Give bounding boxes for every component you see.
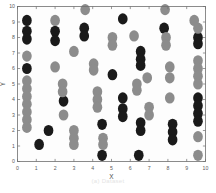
data-point <box>168 134 178 145</box>
data-point <box>98 139 108 150</box>
figure-container: 012345678910012345678910 X Y (a) Dataset <box>0 0 216 193</box>
figure-caption: (a) Dataset <box>0 178 216 184</box>
data-point <box>165 72 175 83</box>
data-point <box>79 30 89 41</box>
y-tick-label: 8 <box>12 34 15 40</box>
data-point <box>118 111 128 122</box>
data-point <box>193 116 203 127</box>
data-point <box>159 23 169 34</box>
data-point <box>50 35 60 46</box>
data-point <box>118 92 128 103</box>
data-point <box>165 61 175 72</box>
plot-background <box>18 7 206 162</box>
data-point <box>136 60 146 71</box>
y-axis-label: Y <box>0 81 6 86</box>
y-tick-label: 4 <box>12 96 15 102</box>
data-point <box>89 64 99 75</box>
data-point <box>22 63 32 74</box>
data-point <box>108 69 118 80</box>
data-point <box>22 33 32 44</box>
data-point <box>80 4 90 15</box>
y-tick-label: 3 <box>12 112 15 118</box>
data-point <box>193 78 203 89</box>
data-point <box>93 102 103 113</box>
data-point <box>129 30 139 41</box>
data-point <box>22 15 32 26</box>
data-point <box>59 109 69 120</box>
data-point <box>160 4 170 15</box>
x-tick-label: 3 <box>72 165 75 171</box>
data-point <box>118 13 128 24</box>
data-point <box>134 150 144 161</box>
data-point <box>44 125 54 136</box>
scatter-plot: 012345678910012345678910 X Y <box>0 0 216 193</box>
data-point <box>108 40 118 51</box>
data-point <box>142 72 152 83</box>
data-point <box>136 125 146 136</box>
data-point <box>97 119 107 130</box>
x-tick-label: 0 <box>16 165 19 171</box>
data-point <box>132 85 142 96</box>
data-point <box>34 139 44 150</box>
data-point <box>22 122 32 133</box>
y-tick-label: 10 <box>9 3 15 9</box>
x-tick-label: 6 <box>129 165 132 171</box>
x-tick-label: 8 <box>166 165 169 171</box>
data-point <box>193 38 203 49</box>
data-point <box>58 86 68 97</box>
data-point <box>69 139 79 150</box>
data-point <box>193 150 203 161</box>
x-tick-label: 7 <box>148 165 151 171</box>
x-tick-label: 1 <box>35 165 38 171</box>
x-tick-label: 2 <box>54 165 57 171</box>
data-point <box>22 50 32 61</box>
data-point <box>144 109 154 120</box>
data-point <box>97 150 107 161</box>
y-tick-label: 5 <box>12 81 15 87</box>
y-tick-label: 0 <box>12 158 15 164</box>
x-tick-label: 5 <box>110 165 113 171</box>
data-point <box>161 40 171 51</box>
data-point <box>69 46 79 57</box>
y-tick-label: 6 <box>12 65 15 71</box>
y-tick-label: 7 <box>12 50 15 56</box>
y-tick-label: 9 <box>12 19 15 25</box>
x-tick-label: 10 <box>203 165 209 171</box>
data-point <box>50 61 60 72</box>
y-tick-label: 1 <box>12 143 15 149</box>
x-tick-label: 9 <box>185 165 188 171</box>
data-point <box>193 23 203 34</box>
data-point <box>165 92 175 103</box>
data-point <box>193 131 203 142</box>
y-tick-label: 2 <box>12 127 15 133</box>
data-point <box>50 15 60 26</box>
x-tick-label: 4 <box>91 165 94 171</box>
